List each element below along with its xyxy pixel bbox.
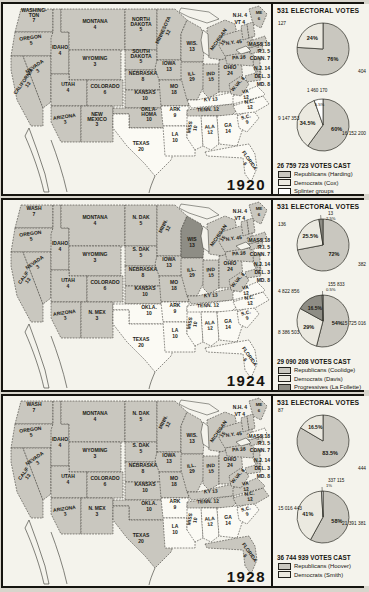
pie-value: 444 <box>358 466 366 471</box>
pie-value: 15 016 443 <box>278 506 302 511</box>
popular-votes-pie-1924: 54%15 725 01629%8 386 50316.5%4 822 8561… <box>276 281 368 357</box>
votes-cast-label: 29 090 208 VOTES CAST <box>277 358 368 365</box>
state-label-la: LA10 <box>172 327 179 338</box>
electoral-map-1920: WASHING-TON7OREGON5CALIFORNIA13NEVADA3ID… <box>3 4 271 194</box>
panel-1920: WASHING-TON7OREGON5CALIFORNIA13NEVADA3ID… <box>1 2 364 196</box>
legend-label: Republicans (Harding) <box>294 171 353 177</box>
ne-state-label: MD. 8 <box>257 473 271 479</box>
mexico-outline <box>51 532 67 584</box>
ne-state-label: MD. 8 <box>257 277 271 283</box>
map-1928: WASH7OREGON5CALIF13NEVADA3IDAHO4MONTANA4… <box>3 396 273 586</box>
ne-state-label: N.H. 4 <box>233 404 247 410</box>
electoral-votes-header: 531 ELECTORAL VOTES <box>277 7 368 14</box>
legend-row-rep: Republicans (Coolidge) <box>278 367 368 374</box>
mexico-outline <box>149 176 155 193</box>
legend-label: Democrats (Davis) <box>294 376 343 382</box>
mexico-outline <box>51 140 67 192</box>
mexico-outline <box>25 128 49 192</box>
legend-swatch-prog <box>278 384 291 391</box>
ne-state-label: DEL. 3 <box>254 73 270 79</box>
figure-page: WASHING-TON7OREGON5CALIFORNIA13NEVADA3ID… <box>0 0 365 588</box>
legend-label: Republicans (Hoover) <box>294 563 351 569</box>
votes-cast-label: 36 744 939 VOTES CAST <box>277 554 368 561</box>
ne-state-label: DEL. 3 <box>254 269 270 275</box>
year-label-1924: 1924 <box>227 372 266 389</box>
pie-value: 155 833 <box>328 282 345 287</box>
votes-cast-label: 26 759 723 VOTES CAST <box>277 162 368 169</box>
legend-row-rep: Republicans (Harding) <box>278 171 368 178</box>
ne-state-label: MASS.18 <box>249 433 271 439</box>
pie-percent: 58% <box>331 518 342 524</box>
ne-state-label: N.H. 4 <box>233 12 247 18</box>
legend-swatch-rep <box>278 367 291 374</box>
pie-percent: 83.5% <box>322 450 338 456</box>
legend-swatch-dem <box>278 571 291 578</box>
ne-state-label: VT 4 <box>234 19 245 25</box>
pie-percent: 25.5% <box>302 233 318 239</box>
pie-value: 8 386 503 <box>278 330 300 335</box>
panel-1928: WASH7OREGON5CALIF13NEVADA3IDAHO4MONTANA4… <box>1 394 364 588</box>
state-label-ky: KY 13 <box>204 487 218 494</box>
pie-value: 127 <box>278 21 286 26</box>
pie-percent: 34.5% <box>300 120 316 126</box>
legend-row-rep: Republicans (Hoover) <box>278 563 368 570</box>
state-label-tenn: TENN. 12 <box>197 498 219 505</box>
legend-swatch-dem <box>278 179 291 186</box>
legend-label: Republicans (Coolidge) <box>294 367 355 373</box>
legend-row-dem: Democrats (Cox) <box>278 179 368 186</box>
ne-state-label: MD. 8 <box>257 81 271 87</box>
ne-state-label: R.I. 5 <box>258 48 270 54</box>
legend-row-dem: Democrats (Davis) <box>278 375 368 382</box>
ne-state-label: N.J. 14 <box>254 261 270 267</box>
year-label-1928: 1928 <box>227 568 266 585</box>
legend-label: Progressives (La Follette) <box>294 384 361 390</box>
ne-state-label: MASS.18 <box>249 41 271 47</box>
pie-percent: 16.5% <box>308 305 323 311</box>
ne-state-label: R.I. 5 <box>258 440 270 446</box>
ne-state-label: N.J. 14 <box>254 65 270 71</box>
pie-value: 87 <box>278 408 284 413</box>
mexico-outline <box>149 568 155 585</box>
pie-value: 404 <box>358 69 366 74</box>
popular-votes-pie-1928: 58%21 391 38141%15 016 443337 1151% <box>276 477 368 553</box>
legend-1924: Republicans (Coolidge)Democrats (Davis)P… <box>276 367 368 391</box>
legend-row-dem: Democrats (Smith) <box>278 571 368 578</box>
mexico-outline <box>51 336 67 388</box>
ne-state-label: CONN. 7 <box>250 251 271 257</box>
legend-swatch-rep <box>278 563 291 570</box>
ne-state-label: N.H. 4 <box>233 208 247 214</box>
legend-swatch-spl <box>278 188 291 195</box>
legend-1928: Republicans (Hoover)Democrats (Smith) <box>276 563 368 579</box>
electoral-map-1924: WASH7OREGON5CALIF13NEVADA3IDAHO4MONTANA4… <box>3 200 271 390</box>
pie-value: 4 822 856 <box>278 289 300 294</box>
mexico-outline <box>25 324 49 388</box>
mexico-outline <box>149 372 155 389</box>
legend-label: Democrats (Smith) <box>294 572 343 578</box>
state-label-pa: PA 38 <box>232 54 246 61</box>
legend-swatch-rep <box>278 171 291 178</box>
info-box-1928: 531 ELECTORAL VOTES 83.5%44416.5%87 58%2… <box>273 396 369 586</box>
electoral-votes-pie-1928: 83.5%44416.5%87 <box>276 406 368 477</box>
state-label-la: LA10 <box>172 523 179 534</box>
legend-row-prog: Progressives (La Follette) <box>278 384 368 391</box>
electoral-map-1928: WASH7OREGON5CALIF13NEVADA3IDAHO4MONTANA4… <box>3 396 271 586</box>
pie-value: 16 152 200 <box>342 131 366 136</box>
info-box-1924: 531 ELECTORAL VOTES 72%38225.5%136132.5%… <box>273 200 369 390</box>
ne-state-label: CONN. 7 <box>250 447 271 453</box>
pie-value: 136 <box>278 222 286 227</box>
electoral-votes-header: 531 ELECTORAL VOTES <box>277 399 368 406</box>
legend-label: Democrats (Cox) <box>294 180 339 186</box>
ne-state-label: R.I. 5 <box>258 244 270 250</box>
pie-percent: 72% <box>329 251 340 257</box>
electoral-votes-header: 531 ELECTORAL VOTES <box>277 203 368 210</box>
pie-percent: 0.5% <box>326 287 336 292</box>
pie-percent: 1% <box>326 483 332 488</box>
legend-row-spl: Splinter groups <box>278 188 368 195</box>
electoral-votes-pie-1920: 76%40424%127 <box>276 14 368 85</box>
map-1924: WASH7OREGON5CALIF13NEVADA3IDAHO4MONTANA4… <box>3 200 273 390</box>
info-box-1920: 531 ELECTORAL VOTES 76%40424%127 60%16 1… <box>273 4 369 194</box>
pie-value: 1 460 170 <box>307 88 328 93</box>
pie-percent: 2.5% <box>326 216 336 221</box>
map-1920: WASHING-TON7OREGON5CALIFORNIA13NEVADA3ID… <box>3 4 273 194</box>
pie-percent: 29% <box>303 324 314 330</box>
